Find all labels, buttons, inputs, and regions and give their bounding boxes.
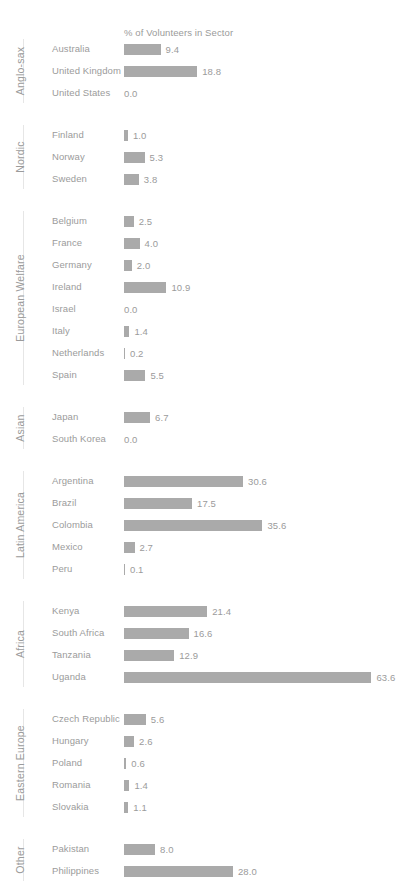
- chart-row: Poland0.6: [40, 752, 410, 774]
- bar: [124, 260, 132, 271]
- bar: [124, 758, 126, 769]
- group-rows: Kenya21.4South Africa16.6Tanzania12.9Uga…: [40, 600, 410, 688]
- bar-value-label: 1.1: [133, 802, 147, 813]
- chart-row: Argentina30.6: [40, 470, 410, 492]
- chart-row: Slovakia1.1: [40, 796, 410, 818]
- row-category-label: Spain: [52, 364, 77, 386]
- bar: [124, 174, 139, 185]
- bar-area: 63.6: [124, 666, 410, 688]
- row-category-label: France: [52, 232, 82, 254]
- bar: [124, 130, 128, 141]
- row-category-label: Argentina: [52, 470, 94, 492]
- bar-area: 5.5: [124, 364, 410, 386]
- group-label: Nordic: [0, 124, 40, 190]
- group-label: Africa: [0, 600, 40, 688]
- group-label-text: Other: [14, 846, 26, 873]
- bar-value-label: 1.0: [133, 130, 147, 141]
- group-label-text: Anglo-sax: [14, 47, 26, 96]
- bar: [124, 216, 134, 227]
- bar: [124, 326, 129, 337]
- group-label: Asian: [0, 406, 40, 450]
- row-category-label: Philippines: [52, 860, 99, 882]
- chart-row: Spain5.5: [40, 364, 410, 386]
- bar-value-label: 1.4: [134, 326, 148, 337]
- row-category-label: Ireland: [52, 276, 82, 298]
- bar: [124, 564, 125, 575]
- chart-row: Colombia35.6: [40, 514, 410, 536]
- bar-value-label: 0.2: [130, 348, 144, 359]
- chart-group: Anglo-saxAustralia9.4United Kingdom18.8U…: [0, 38, 410, 104]
- bar-area: 10.9: [124, 276, 410, 298]
- row-category-label: Mexico: [52, 536, 83, 558]
- chart-row: Hungary2.6: [40, 730, 410, 752]
- bar-value-label: 0.1: [130, 564, 144, 575]
- chart-groups: Anglo-saxAustralia9.4United Kingdom18.8U…: [0, 38, 410, 882]
- bar-value-label: 16.6: [194, 628, 213, 639]
- row-category-label: Belgium: [52, 210, 87, 232]
- chart-row: France4.0: [40, 232, 410, 254]
- row-category-label: Brazil: [52, 492, 76, 514]
- row-category-label: Japan: [52, 406, 78, 428]
- chart-row: Ireland10.9: [40, 276, 410, 298]
- group-label: Latin America: [0, 470, 40, 580]
- group-rows: Australia9.4United Kingdom18.8United Sta…: [40, 38, 410, 104]
- group-label-text: Eastern Europe: [14, 725, 26, 801]
- bar: [124, 152, 145, 163]
- chart-row: United Kingdom18.8: [40, 60, 410, 82]
- bar-area: 17.5: [124, 492, 410, 514]
- chart-row: Finland1.0: [40, 124, 410, 146]
- bar-value-label: 5.3: [150, 152, 164, 163]
- row-category-label: Norway: [52, 146, 85, 168]
- chart-row: Brazil17.5: [40, 492, 410, 514]
- chart-row: Uganda63.6: [40, 666, 410, 688]
- bar-area: 21.4: [124, 600, 410, 622]
- bar: [124, 412, 150, 423]
- bar: [124, 802, 128, 813]
- row-category-label: South Africa: [52, 622, 104, 644]
- bar-area: 4.0: [124, 232, 410, 254]
- row-category-label: Tanzania: [52, 644, 91, 666]
- bar-area: 12.9: [124, 644, 410, 666]
- bar: [124, 844, 155, 855]
- bar: [124, 44, 161, 55]
- group-label: European Welfare: [0, 210, 40, 386]
- bar: [124, 66, 197, 77]
- bar-area: 1.0: [124, 124, 410, 146]
- group-rows: Czech Republic5.6Hungary2.6Poland0.6Roma…: [40, 708, 410, 818]
- bar-value-label: 4.0: [145, 238, 159, 249]
- bar-area: 16.6: [124, 622, 410, 644]
- bar: [124, 672, 371, 683]
- bar: [124, 780, 129, 791]
- bar-area: 9.4: [124, 38, 410, 60]
- bar-value-label: 17.5: [197, 498, 216, 509]
- bar-area: 0.0: [124, 428, 410, 450]
- bar-value-label: 5.6: [151, 714, 165, 725]
- chart-row: South Korea0.0: [40, 428, 410, 450]
- chart-row: Belgium2.5: [40, 210, 410, 232]
- row-category-label: Colombia: [52, 514, 93, 536]
- chart-group: European WelfareBelgium2.5France4.0Germa…: [0, 210, 410, 386]
- bar-value-label: 10.9: [171, 282, 190, 293]
- bar-value-label: 0.0: [124, 88, 138, 99]
- bar: [124, 238, 140, 249]
- group-label-text: Asian: [14, 414, 26, 441]
- bar: [124, 498, 192, 509]
- chart-row: Netherlands0.2: [40, 342, 410, 364]
- chart-group: OtherPakistan8.0Philippines28.0: [0, 838, 410, 882]
- chart-row: South Africa16.6: [40, 622, 410, 644]
- group-label-text: European Welfare: [14, 254, 26, 342]
- row-category-label: Poland: [52, 752, 82, 774]
- bar-area: 2.6: [124, 730, 410, 752]
- row-category-label: Finland: [52, 124, 84, 146]
- bar-area: 2.5: [124, 210, 410, 232]
- chart-row: Czech Republic5.6: [40, 708, 410, 730]
- bar-area: 18.8: [124, 60, 410, 82]
- row-category-label: Germany: [52, 254, 92, 276]
- chart-row: Italy1.4: [40, 320, 410, 342]
- bar-value-label: 6.7: [155, 412, 169, 423]
- chart-group: NordicFinland1.0Norway5.3Sweden3.8: [0, 124, 410, 190]
- bar: [124, 606, 207, 617]
- row-category-label: Netherlands: [52, 342, 104, 364]
- bar: [124, 282, 166, 293]
